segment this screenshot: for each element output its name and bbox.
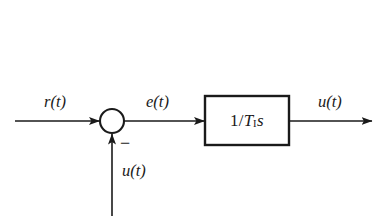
block-diagram-figure: r(t) e(t) u(t) u(t) − 1/TIs [0, 0, 380, 216]
reference-input-label: r(t) [44, 94, 66, 111]
transfer-function-gain-subscript: I [253, 118, 257, 129]
error-signal-label: e(t) [146, 94, 169, 111]
transfer-function-label: 1/TIs [206, 97, 288, 144]
feedback-signal-label: u(t) [122, 163, 146, 180]
summing-junction [100, 109, 124, 133]
transfer-function-laplace-variable: s [257, 111, 264, 131]
transfer-function-numerator: 1 [230, 111, 239, 131]
output-signal-label: u(t) [318, 94, 342, 111]
negative-sign-label: − [120, 134, 130, 152]
